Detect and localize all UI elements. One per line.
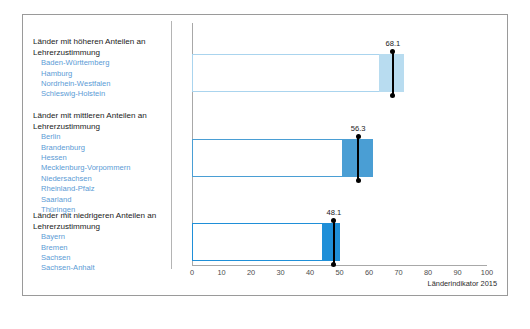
bar-outline [192, 223, 340, 261]
x-tick-label: 0 [190, 268, 194, 277]
x-tick-label: 90 [453, 268, 461, 277]
category-group-higher: Länder mit höheren Anteilen an Lehrerzus… [33, 37, 146, 100]
list-item: Sachsen [41, 253, 156, 263]
marker-dot-bottom [390, 93, 395, 98]
bar-row: 56.3 [192, 139, 487, 177]
x-axis-line [192, 265, 487, 266]
value-marker [392, 51, 394, 95]
list-item: Bremen [41, 243, 156, 253]
marker-dot-top [331, 218, 336, 223]
column-divider [171, 21, 172, 269]
category-group-lower: Länder mit niedrigeren Anteilen an Lehre… [33, 211, 156, 274]
source-footnote: Länderindikator 2015 [428, 279, 497, 288]
list-item: Mecklenburg-Vorpommern [41, 163, 147, 173]
x-tick-label: 40 [306, 268, 314, 277]
plot-area: 68.156.348.1 0102030405060708090100 [183, 23, 499, 271]
x-tick-label: 60 [365, 268, 373, 277]
list-item: Rheinland-Pfalz [41, 184, 147, 194]
x-tick-label: 30 [276, 268, 284, 277]
chart-figure: Länder mit höheren Anteilen an Lehrerzus… [22, 14, 508, 296]
marker-dot-top [356, 134, 361, 139]
state-list-lower: Bayern Bremen Sachsen Sachsen-Anhalt [33, 232, 156, 274]
list-item: Berlin [41, 132, 147, 142]
bar-value-label: 56.3 [351, 124, 366, 133]
group-title-line1: Länder mit mittleren Anteilen an [33, 111, 147, 122]
category-group-middle: Länder mit mittleren Anteilen an Lehrerz… [33, 111, 147, 215]
x-tick-label: 50 [335, 268, 343, 277]
list-item: Baden-Württemberg [41, 58, 146, 68]
bar-row: 68.1 [192, 54, 487, 92]
group-title-line1: Länder mit höheren Anteilen an [33, 37, 146, 48]
bar-fill [322, 223, 340, 261]
list-item: Bayern [41, 232, 156, 242]
marker-dot-bottom [331, 262, 336, 267]
x-tick-label: 20 [247, 268, 255, 277]
list-item: Hessen [41, 153, 147, 163]
category-label-column: Länder mit höheren Anteilen an Lehrerzus… [23, 15, 171, 295]
bar-value-label: 68.1 [386, 39, 401, 48]
list-item: Nordrhein-Westfalen [41, 79, 146, 89]
list-item: Brandenburg [41, 143, 147, 153]
list-item: Schleswig-Holstein [41, 89, 146, 99]
x-tick-label: 100 [481, 268, 493, 277]
state-list-higher: Baden-Württemberg Hamburg Nordrhein-West… [33, 58, 146, 100]
state-list-middle: Berlin Brandenburg Hessen Mecklenburg-Vo… [33, 132, 147, 215]
group-title-line2: Lehrerzustimmung [33, 48, 146, 59]
value-marker [333, 220, 335, 264]
group-title-line2: Lehrerzustimmung [33, 122, 147, 133]
value-marker [357, 136, 359, 180]
list-item: Niedersachsen [41, 174, 147, 184]
list-item: Sachsen-Anhalt [41, 263, 156, 273]
x-tick-label: 70 [394, 268, 402, 277]
group-title-line1: Länder mit niedrigeren Anteilen an [33, 211, 156, 222]
bar-value-label: 48.1 [327, 208, 342, 217]
x-tick-label: 80 [424, 268, 432, 277]
marker-dot-top [390, 49, 395, 54]
plot-inner: 68.156.348.1 0102030405060708090100 [192, 23, 487, 271]
bar-row: 48.1 [192, 223, 487, 261]
list-item: Hamburg [41, 69, 146, 79]
marker-dot-bottom [356, 178, 361, 183]
bar-outline [192, 54, 404, 92]
group-title-line2: Lehrerzustimmung [33, 222, 156, 233]
x-tick-label: 10 [217, 268, 225, 277]
list-item: Saarland [41, 195, 147, 205]
